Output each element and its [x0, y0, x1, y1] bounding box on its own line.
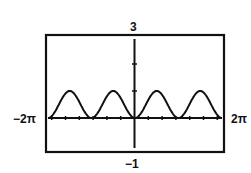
- y-max-label: 3: [130, 21, 137, 33]
- graph-canvas: [0, 0, 251, 173]
- y-min-label: −1: [125, 158, 139, 170]
- x-min-label: −2π: [13, 113, 36, 125]
- x-max-label: 2π: [231, 113, 247, 125]
